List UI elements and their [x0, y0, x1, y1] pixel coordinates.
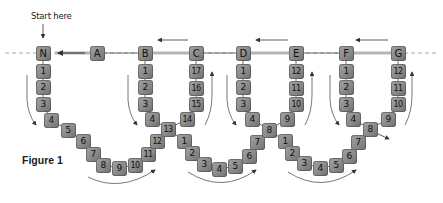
- bead-g-11: 11: [391, 81, 406, 96]
- bead-b-3: 3: [138, 97, 153, 112]
- bead-l1-4: 4: [44, 113, 59, 128]
- bead-B: B: [138, 46, 153, 61]
- bead-e-10: 10: [289, 97, 304, 112]
- cord-1: [145, 53, 296, 169]
- bead-d-1: 1: [236, 64, 251, 79]
- bead-l2-4: 4: [212, 162, 227, 177]
- bead-f-1: 1: [339, 64, 354, 79]
- bead-l3-3: 3: [297, 156, 312, 171]
- bead-l2-3: 3: [197, 157, 212, 172]
- bead-g-12: 12: [391, 64, 406, 79]
- bead-c-15: 15: [189, 97, 204, 112]
- bead-l1-2: 2: [36, 80, 51, 95]
- bead-c-14: 14: [180, 112, 195, 127]
- bead-A: A: [90, 46, 105, 61]
- bead-l2-8: 8: [262, 123, 277, 138]
- bead-l3-8: 8: [363, 122, 378, 137]
- bead-b-4: 4: [145, 112, 160, 127]
- bead-N: N: [36, 46, 51, 61]
- bead-G: G: [391, 46, 406, 61]
- bead-c-17: 17: [189, 64, 204, 79]
- arrow-down-left-3: [227, 75, 236, 125]
- cord-2: [243, 53, 398, 168]
- bead-b-1: 1: [138, 64, 153, 79]
- bead-l1-11: 11: [141, 147, 156, 162]
- bead-l1-1: 1: [36, 64, 51, 79]
- bead-l3-6: 6: [342, 149, 357, 164]
- bead-l1-8: 8: [96, 158, 111, 173]
- bead-d-4: 4: [245, 112, 260, 127]
- bead-f-2: 2: [339, 80, 354, 95]
- cord-0: [43, 53, 196, 168]
- bead-l3-7: 7: [351, 135, 366, 150]
- bead-f-3: 3: [339, 97, 354, 112]
- bead-c-16: 16: [189, 81, 204, 96]
- bead-l2-6: 6: [242, 149, 257, 164]
- arrow-up-right-2: [305, 72, 312, 125]
- bead-e-12: 12: [289, 64, 304, 79]
- bead-b-2: 2: [138, 80, 153, 95]
- bead-C: C: [189, 46, 204, 61]
- bead-l1-9: 9: [112, 161, 127, 176]
- bead-e-11: 11: [289, 81, 304, 96]
- bead-l1-3: 3: [36, 97, 51, 112]
- bead-F: F: [339, 46, 354, 61]
- bead-pattern-diagram: NABCDEFG12345678910111213123417161514123…: [0, 0, 443, 203]
- bead-d-2: 2: [236, 80, 251, 95]
- arrow-down-left-1: [27, 75, 36, 125]
- arrow-up-right-3: [405, 72, 412, 125]
- arrow-down-left-4: [330, 75, 339, 125]
- bead-D: D: [236, 46, 251, 61]
- bead-g-9: 9: [381, 112, 396, 127]
- bead-g-10: 10: [391, 97, 406, 112]
- figure-caption: Figure 1: [22, 154, 63, 166]
- bead-e-9: 9: [280, 112, 295, 127]
- arrow-up-right-1: [205, 72, 212, 125]
- bead-E: E: [289, 46, 304, 61]
- arrow-down-left-2: [128, 75, 137, 125]
- start-here-label: Start here: [31, 11, 72, 21]
- bead-d-3: 3: [236, 97, 251, 112]
- bead-l3-4: 4: [313, 161, 328, 176]
- arrow-exit: [376, 133, 389, 139]
- bead-l2-5: 5: [228, 159, 243, 174]
- bead-f-4: 4: [346, 112, 361, 127]
- bead-l1-13: 13: [161, 122, 176, 137]
- bead-l1-5: 5: [61, 123, 76, 138]
